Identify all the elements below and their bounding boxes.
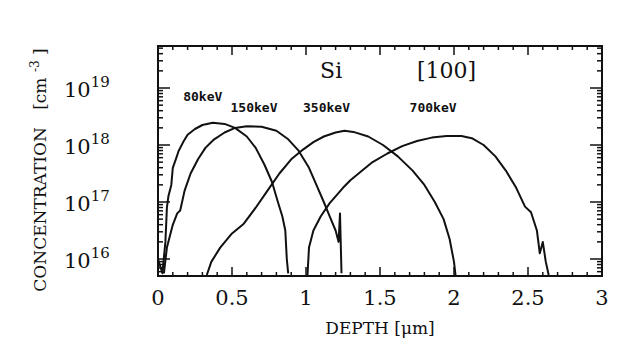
y-axis-title: CONCENTRATION [cm -3 ] bbox=[23, 48, 50, 291]
y-tick-exp: 19 bbox=[91, 73, 110, 91]
x-axis-title: DEPTH [μm] bbox=[325, 318, 434, 338]
y-tick-exp: 17 bbox=[91, 187, 110, 205]
y-axis-title-unit-close: ] bbox=[30, 48, 50, 55]
y-tick-label: 1019 bbox=[64, 73, 110, 102]
y-axis-title-unit-exp: -3 bbox=[28, 60, 42, 72]
annotation: [100] bbox=[417, 58, 476, 83]
curves bbox=[158, 123, 549, 275]
curve-80keV bbox=[158, 123, 288, 273]
x-tick-label: 0.5 bbox=[215, 286, 248, 310]
curve-700keV bbox=[308, 136, 549, 275]
x-tick-label: 2.5 bbox=[511, 286, 544, 310]
annotations: Si[100] bbox=[320, 58, 476, 83]
y-axis-title-main: CONCENTRATION bbox=[30, 127, 50, 292]
y-axis-title-unit: [cm bbox=[30, 78, 50, 110]
curve-label-80keV: 80keV bbox=[183, 89, 222, 104]
x-tick-label: 1.5 bbox=[363, 286, 396, 310]
y-tick-label: 1016 bbox=[64, 244, 110, 273]
y-tick-base: 10 bbox=[64, 135, 91, 159]
y-tick-base: 10 bbox=[64, 192, 91, 216]
curve-labels: 80keV150keV350keV700keV bbox=[183, 89, 457, 115]
curve-label-150keV: 150keV bbox=[231, 100, 278, 115]
svg-text:CONCENTRATION [cm: CONCENTRATION [cm -3 ] bbox=[23, 48, 50, 291]
y-tick-exp: 16 bbox=[91, 244, 110, 262]
chart: 00.511.522.53 1016101710181019 80keV150k… bbox=[0, 0, 624, 356]
x-tick-label: 3 bbox=[595, 286, 608, 310]
x-tick-label: 0 bbox=[151, 286, 164, 310]
x-tick-label: 1 bbox=[299, 286, 312, 310]
y-tick-label: 1017 bbox=[64, 187, 110, 216]
x-tick-label: 2 bbox=[447, 286, 460, 310]
curve-label-350keV: 350keV bbox=[303, 100, 350, 115]
y-tick-exp: 18 bbox=[91, 130, 110, 148]
y-tick-base: 10 bbox=[64, 249, 91, 273]
curve-150keV bbox=[164, 126, 342, 273]
y-tick-label: 1018 bbox=[64, 130, 110, 159]
x-axis-ticks: 00.511.522.53 bbox=[151, 46, 608, 310]
curve-label-700keV: 700keV bbox=[410, 100, 457, 115]
annotation: Si bbox=[320, 58, 342, 83]
y-tick-base: 10 bbox=[64, 78, 91, 102]
